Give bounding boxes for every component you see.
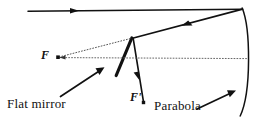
dotted-axis-line — [60, 58, 248, 59]
incoming-ray-arrowhead — [70, 8, 79, 14]
dotted-line-focus-to-vertex — [59, 38, 131, 57]
focus-dot — [56, 55, 60, 59]
optics-figure: F F' Flat mirror Parabola — [0, 0, 262, 126]
focus-prime-dot — [142, 101, 145, 104]
flat-mirror-label: Flat mirror — [7, 97, 66, 110]
flat-mirror-leader-line — [61, 71, 101, 97]
flat-mirror-segment — [116, 38, 132, 76]
parabola-leader-line — [197, 93, 232, 109]
focus-label: F — [41, 49, 49, 61]
ray-to-focus-prime-arrowhead — [134, 72, 140, 81]
incoming-ray — [28, 9, 243, 11]
parabola-label: Parabola — [154, 99, 201, 112]
focus-prime-label: F' — [130, 91, 141, 103]
parabola-arc — [240, 8, 248, 116]
flat-mirror-leader-arrowhead — [96, 67, 105, 75]
